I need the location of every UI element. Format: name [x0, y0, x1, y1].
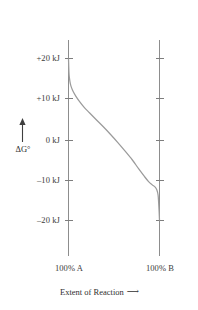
free-energy-diagram: +20 kJ +10 kJ 0 kJ –10 kJ –20 kJ ΔG° 100… — [0, 0, 198, 310]
x-axis-caption-text: Extent of Reaction — [60, 287, 124, 297]
ytick-label-minus10: –10 kJ — [14, 176, 60, 185]
ytick-label-plus10: +10 kJ — [14, 94, 60, 103]
y-axis-label: ΔG° — [6, 145, 40, 154]
ytick-label-plus20: +20 kJ — [14, 54, 60, 63]
xtick-label-100-b: 100% B — [131, 264, 189, 273]
x-axis-caption: Extent of Reaction⟶ — [0, 286, 198, 297]
ytick-label-minus20: –20 kJ — [14, 216, 60, 225]
right-arrow-icon: ⟶ — [127, 286, 138, 296]
xtick-label-100-a: 100% A — [40, 264, 98, 273]
free-energy-curve — [69, 59, 160, 221]
